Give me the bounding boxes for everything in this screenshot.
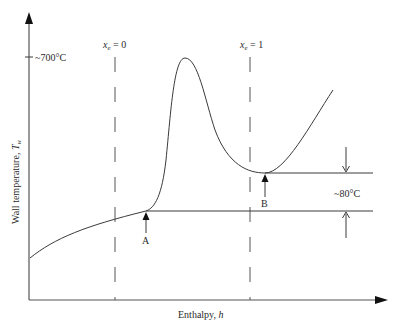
x-axis-arrowhead: [375, 296, 388, 304]
xe-0-value: = 0: [111, 39, 127, 50]
x-axis-symbol: h: [218, 309, 223, 320]
point-B-label: B: [261, 198, 268, 209]
temperature-difference-label: ~80°C: [334, 188, 360, 199]
point-A-label: A: [142, 235, 150, 246]
y-axis-arrowhead: [25, 12, 33, 24]
y-axis-label-text: Wall temperature,: [10, 150, 21, 224]
arrow-B-head: [262, 174, 269, 182]
y-axis-label: Wall temperature, Tw: [10, 140, 23, 224]
xe-0-label: xe = 0: [102, 39, 126, 52]
arrow-A-head: [143, 212, 150, 220]
x-axis-label: Enthalpy, h: [178, 309, 223, 320]
xe-1-value: = 1: [248, 39, 264, 50]
wall-temperature-curve: [30, 58, 333, 258]
boiling-diagram: ~700°C Wall temperature, Tw Enthalpy, h …: [0, 0, 400, 328]
x-axis-label-text: Enthalpy,: [178, 309, 218, 320]
y-axis-subscript: w: [15, 140, 23, 145]
xe-1-label: xe = 1: [239, 39, 263, 52]
y-tick-label: ~700°C: [35, 52, 66, 63]
